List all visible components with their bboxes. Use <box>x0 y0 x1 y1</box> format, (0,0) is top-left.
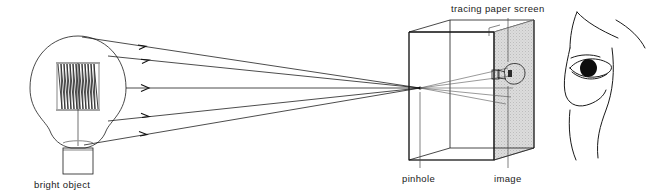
tracing-paper-screen-label: tracing paper screen <box>451 3 545 14</box>
diagram-canvas: bright object <box>0 0 654 195</box>
image-filament-mark <box>508 70 512 77</box>
pinhole-label: pinhole <box>402 173 435 184</box>
tracing-paper-screen-panel <box>494 20 534 160</box>
image-label: image <box>494 173 522 184</box>
pinhole-camera-diagram: bright object <box>0 0 654 195</box>
bright-object-label: bright object <box>34 179 90 190</box>
